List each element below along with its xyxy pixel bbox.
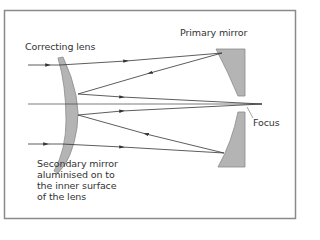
ray — [146, 134, 224, 153]
ray — [60, 61, 126, 65]
secondary-mirror-label-line: Secondary mirror — [37, 158, 118, 169]
secondary-mirror-label-line: of the lens — [37, 191, 118, 202]
ray — [78, 73, 150, 94]
ray — [78, 115, 146, 134]
correcting-lens-label: Correcting lens — [25, 41, 95, 52]
focus-label: Focus — [253, 117, 280, 128]
ray — [122, 104, 262, 111]
secondary-mirror-label-line: the inner surface — [37, 180, 118, 191]
secondary-mirror-label: Secondary mirror aluminised on to the in… — [37, 158, 118, 202]
primary-mirror-top — [216, 49, 245, 96]
secondary-mirror-label-line: aluminised on to — [37, 169, 118, 180]
ray — [122, 147, 224, 153]
ray — [122, 97, 262, 104]
primary-mirror-label: Primary mirror — [180, 27, 247, 38]
correcting-lens — [54, 57, 78, 173]
primary-mirror-bottom — [218, 112, 245, 167]
ray — [78, 111, 122, 115]
ray — [78, 94, 122, 97]
